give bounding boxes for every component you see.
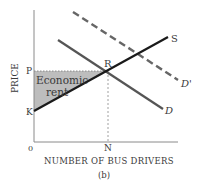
demand-label: D: [164, 105, 173, 116]
equilibrium-r-label: R: [104, 58, 112, 69]
y-axis-label: PRICE: [10, 63, 20, 93]
origin-label: 0: [28, 144, 33, 153]
demand-shifted-curve: [73, 12, 178, 80]
supply-label: S: [171, 33, 178, 44]
price-p-label: P: [26, 66, 32, 76]
economic-rent-label-line2: rent: [46, 86, 69, 98]
price-k-label: K: [26, 107, 33, 117]
demand-shifted-label: D': [180, 78, 192, 89]
x-axis-label: NUMBER OF BUS DRIVERS: [44, 156, 174, 166]
economic-rent-label-line1: Economic: [36, 74, 88, 86]
figure-caption: (b): [98, 170, 110, 180]
quantity-n-label: N: [104, 143, 112, 153]
economic-rent-diagram: PRICE P K 0 N R Economic rent S D D' NUM…: [0, 0, 203, 191]
